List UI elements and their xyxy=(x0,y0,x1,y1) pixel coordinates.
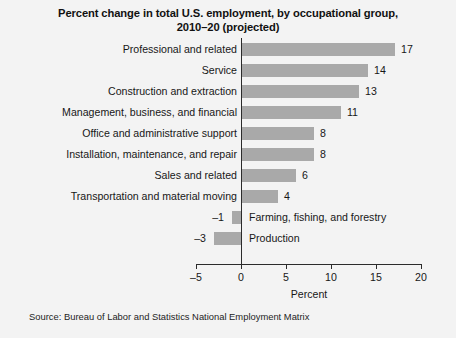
chart-bar xyxy=(214,232,241,245)
chart-figure: Percent change in total U.S. employment,… xyxy=(0,0,456,338)
chart-row: Transportation and material moving4 xyxy=(0,186,456,207)
bar-value-label: 8 xyxy=(320,126,326,140)
category-label: Professional and related xyxy=(123,42,237,56)
bar-value-label: 6 xyxy=(302,168,308,182)
x-axis-tick xyxy=(241,264,242,269)
x-axis-tick xyxy=(196,264,197,269)
chart-row: Office and administrative support8 xyxy=(0,123,456,144)
chart-row: Farming, fishing, and forestry–1 xyxy=(0,207,456,228)
bar-value-label: 13 xyxy=(365,84,377,98)
chart-row: Production–3 xyxy=(0,228,456,249)
chart-row: Installation, maintenance, and repair8 xyxy=(0,144,456,165)
x-axis-tick-label: 5 xyxy=(266,271,306,283)
plot-area: Professional and related17Service14Const… xyxy=(0,38,456,264)
chart-row: Construction and extraction13 xyxy=(0,81,456,102)
bar-value-label: 14 xyxy=(374,63,386,77)
zero-axis-line xyxy=(241,38,242,264)
bar-value-label: –1 xyxy=(184,210,224,224)
chart-title-line-2: 2010–20 (projected) xyxy=(28,21,428,35)
chart-bar xyxy=(242,85,359,98)
category-label: Farming, fishing, and forestry xyxy=(249,210,386,224)
chart-title-line-1: Percent change in total U.S. employment,… xyxy=(28,7,428,21)
chart-row: Service14 xyxy=(0,60,456,81)
chart-bar xyxy=(242,106,341,119)
category-label: Construction and extraction xyxy=(108,84,237,98)
source-note: Source: Bureau of Labor and Statistics N… xyxy=(29,311,309,322)
x-axis-tick-label: 10 xyxy=(311,271,351,283)
chart-title: Percent change in total U.S. employment,… xyxy=(28,7,428,34)
category-label: Service xyxy=(202,63,237,77)
chart-row: Sales and related6 xyxy=(0,165,456,186)
chart-row: Professional and related17 xyxy=(0,39,456,60)
bar-value-label: –3 xyxy=(166,231,206,245)
chart-bar xyxy=(232,211,241,224)
x-axis-tick xyxy=(331,264,332,269)
x-axis-line xyxy=(196,264,422,265)
x-axis-tick xyxy=(376,264,377,269)
category-label: Production xyxy=(249,231,300,245)
chart-row: Management, business, and financial11 xyxy=(0,102,456,123)
bar-value-label: 11 xyxy=(347,105,358,119)
category-label: Installation, maintenance, and repair xyxy=(66,147,237,161)
bar-value-label: 8 xyxy=(320,147,326,161)
x-axis-tick-label: 15 xyxy=(356,271,396,283)
x-axis-tick xyxy=(421,264,422,269)
x-axis-tick-label: 0 xyxy=(221,271,261,283)
x-axis-tick xyxy=(286,264,287,269)
category-label: Sales and related xyxy=(155,168,237,182)
chart-bar xyxy=(242,148,314,161)
x-axis-title: Percent xyxy=(196,288,422,300)
chart-bar xyxy=(242,127,314,140)
chart-bar xyxy=(242,190,278,203)
bar-value-label: 4 xyxy=(284,189,290,203)
bar-value-label: 17 xyxy=(401,42,413,56)
category-label: Management, business, and financial xyxy=(62,105,237,119)
chart-bar xyxy=(242,169,296,182)
x-axis-tick-label: –5 xyxy=(176,271,216,283)
x-axis: Percent –505101520 xyxy=(0,264,456,304)
category-label: Transportation and material moving xyxy=(71,189,237,203)
chart-bar xyxy=(242,64,368,77)
category-label: Office and administrative support xyxy=(82,126,237,140)
x-axis-tick-label: 20 xyxy=(401,271,441,283)
chart-bar xyxy=(242,43,395,56)
